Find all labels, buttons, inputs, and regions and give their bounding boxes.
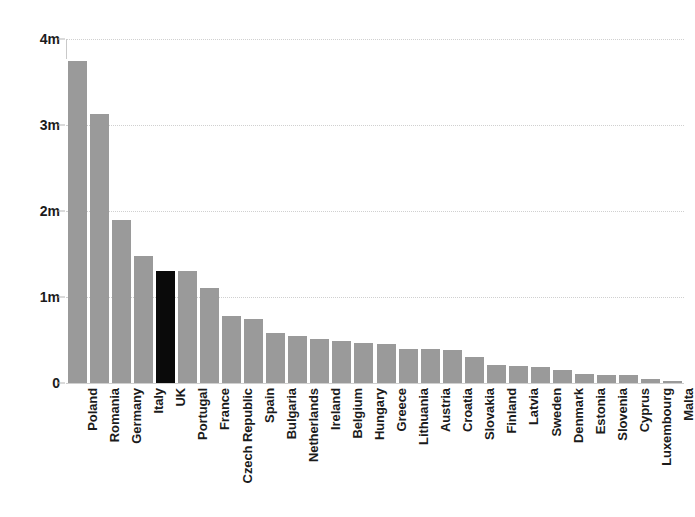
x-axis-label: Spain: [243, 386, 265, 514]
x-axis-label: Hungary: [353, 386, 375, 514]
x-axis-label: Cyprus: [618, 386, 640, 514]
x-axis-baseline: [66, 383, 684, 384]
x-axis-label: Belgium: [331, 386, 353, 514]
bar[interactable]: [553, 370, 572, 383]
bar[interactable]: [509, 366, 528, 383]
x-axis-label: Luxembourg: [640, 386, 662, 514]
bar[interactable]: [575, 374, 594, 383]
y-axis-tick-mark: [58, 211, 65, 212]
x-axis-label: Italy: [132, 386, 154, 514]
bar[interactable]: [465, 357, 484, 383]
x-axis-label: Greece: [375, 386, 397, 514]
bar[interactable]: [619, 375, 638, 383]
x-axis-label: Portugal: [176, 386, 198, 514]
y-axis-tick-label: 0: [8, 375, 60, 391]
bar[interactable]: [443, 350, 462, 383]
y-axis-tick-label: 1m: [8, 289, 60, 305]
bar[interactable]: [377, 344, 396, 383]
y-axis-tick-mark: [58, 39, 65, 40]
x-axis-label: Ireland: [309, 386, 331, 514]
x-axis-label: Croatia: [441, 386, 463, 514]
bar[interactable]: [266, 333, 285, 383]
bar[interactable]: [68, 61, 87, 384]
x-axis-label: Finland: [485, 386, 507, 514]
bar[interactable]: [354, 343, 373, 383]
x-axis-label-text: Malta: [680, 388, 695, 421]
bar[interactable]: [597, 375, 616, 383]
x-axis-label: Lithuania: [397, 386, 419, 514]
x-axis-label: Denmark: [552, 386, 574, 514]
x-axis-label: Czech Republic: [221, 386, 243, 514]
bar[interactable]: [531, 367, 550, 383]
x-axis-label: Sweden: [530, 386, 552, 514]
bar[interactable]: [178, 271, 197, 383]
bar[interactable]: [310, 339, 329, 383]
bar[interactable]: [663, 381, 682, 383]
x-axis-label: Romania: [88, 386, 110, 514]
x-axis-label: Netherlands: [287, 386, 309, 514]
x-axis-label: Germany: [110, 386, 132, 514]
x-axis-label: Latvia: [507, 386, 529, 514]
bar[interactable]: [421, 349, 440, 383]
bar[interactable]: [134, 256, 153, 383]
x-axis-label: France: [198, 386, 220, 514]
bar[interactable]: [332, 341, 351, 383]
y-axis-tick-mark: [58, 125, 65, 126]
bar[interactable]: [399, 349, 418, 383]
y-axis-tick-mark: [58, 297, 65, 298]
y-axis-tick-label: 4m: [8, 31, 60, 47]
x-axis-label: Bulgaria: [265, 386, 287, 514]
y-axis: 4m3m2m1m0: [0, 0, 60, 517]
y-axis-tick-mark: [58, 383, 65, 384]
x-axis-label: UK: [154, 386, 176, 514]
x-axis-label: Malta: [662, 386, 684, 514]
bar[interactable]: [487, 365, 506, 383]
x-axis-label: Slovenia: [596, 386, 618, 514]
bar[interactable]: [200, 288, 219, 383]
x-axis-label: Austria: [419, 386, 441, 514]
x-axis-labels: PolandRomaniaGermanyItalyUKPortugalFranc…: [66, 386, 684, 517]
bar[interactable]: [90, 114, 109, 383]
bar[interactable]: [112, 220, 131, 383]
bar[interactable]: [222, 316, 241, 383]
x-axis-label: Slovakia: [463, 386, 485, 514]
bar-series: [66, 39, 684, 383]
bar[interactable]: [641, 379, 660, 383]
x-axis-label: Poland: [66, 386, 88, 514]
bar[interactable]: [288, 336, 307, 383]
y-axis-tick-label: 2m: [8, 203, 60, 219]
bar[interactable]: [156, 271, 175, 383]
x-axis-label: Estonia: [574, 386, 596, 514]
y-axis-tick-label: 3m: [8, 117, 60, 133]
bar[interactable]: [244, 319, 263, 383]
